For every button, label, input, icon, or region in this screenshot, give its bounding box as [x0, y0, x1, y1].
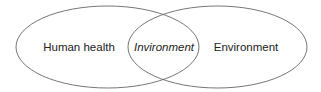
human-health-label: Human health	[43, 42, 115, 54]
venn-diagram: Human health Invironment Environment	[0, 0, 321, 92]
intersection-label: Invironment	[134, 42, 194, 54]
environment-label: Environment	[214, 42, 279, 54]
